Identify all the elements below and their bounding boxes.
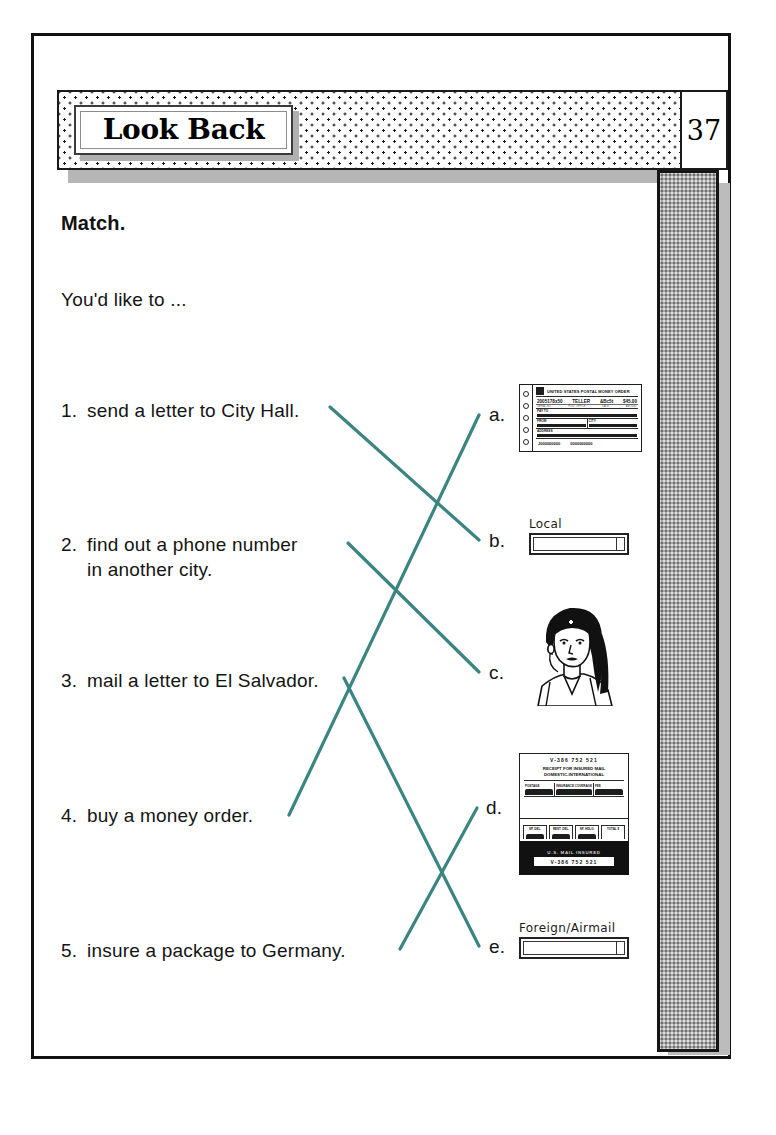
total-label: TOTAL $ <box>602 827 624 831</box>
sphdlg-fill-bar <box>578 834 596 839</box>
prompt-number: 5. <box>61 938 87 963</box>
prompt-item-2[interactable]: 2. find out a phone number in another ci… <box>61 532 298 582</box>
artwork-postal-money-order: UNITED STATES POSTAL MONEY ORDER 2005178… <box>519 384 642 452</box>
receipt-coverage-cell: INSURANCE COVERAGE <box>555 783 594 796</box>
worksheet-page: Look Back 37 Match. You'd like to ... 1.… <box>0 0 776 1135</box>
punch-hole-icon <box>523 391 529 397</box>
page-title: Look Back <box>103 116 265 144</box>
receipt-middle-section: SP. DEL. REST. DEL. SP. HDLG. TOTAL $ <box>519 819 629 841</box>
exercise-heading: Match. <box>61 212 126 235</box>
money-order-payto-row: PAY TO <box>536 408 638 418</box>
header-title-box: Look Back <box>74 105 293 155</box>
receipt-black-band: U.S. MAIL INSURED V-386 752 521 <box>519 841 629 875</box>
restdel-fill-bar <box>552 834 570 839</box>
fee-label: FEE <box>595 784 623 788</box>
answer-letter-e[interactable]: e. <box>489 937 505 956</box>
money-order-amount: $45.00 <box>623 399 637 404</box>
eagle-seal-icon <box>536 387 544 395</box>
prompt-text: insure a package to Germany. <box>87 938 346 963</box>
artwork-local-mail-slot: Local <box>529 517 629 555</box>
money-order-title: UNITED STATES POSTAL MONEY ORDER <box>547 389 630 394</box>
spdel-label: SP. DEL. <box>524 827 546 831</box>
receipt-top-section: V-386 752 521 RECEIPT FOR INSURED MAIL D… <box>519 753 629 819</box>
operator-portrait-drawing <box>524 598 620 706</box>
receipt-band-text: U.S. MAIL INSURED <box>547 850 600 855</box>
local-slot-opening <box>533 537 625 551</box>
prompt-text: mail a letter to El Salvador. <box>87 668 319 693</box>
answer-letter-c[interactable]: c. <box>489 663 504 682</box>
receipt-fee-grid: POSTAGE INSURANCE COVERAGE FEE <box>524 783 624 797</box>
receipt-fee-cell: FEE <box>594 783 624 796</box>
money-order-from-row: FROM CITY <box>536 418 638 428</box>
sphdlg-label: SP. HDLG. <box>576 827 598 831</box>
receipt-restdel-cell: REST. DEL. <box>549 825 573 839</box>
money-order-office: TELLER <box>572 399 590 404</box>
prompt-number: 1. <box>61 398 87 423</box>
artwork-telephone-operator <box>524 598 620 706</box>
payto-fill-bar <box>537 414 637 418</box>
footer-account: 0000000000 <box>570 441 592 446</box>
foreign-slot-opening <box>523 941 625 955</box>
side-decoration-bar <box>657 170 719 1052</box>
page-number: 37 <box>687 117 721 144</box>
restdel-label: REST. DEL. <box>550 827 572 831</box>
money-order-date: &Bc5t <box>600 399 613 404</box>
answer-letter-d[interactable]: d. <box>486 798 502 817</box>
postage-fill-bar <box>525 789 553 795</box>
prompt-text: find out a phone number in another city. <box>87 532 298 582</box>
receipt-number-bottom: V-386 752 521 <box>534 857 614 866</box>
spdel-fill-bar <box>526 834 544 839</box>
city-fill-bar <box>589 424 638 428</box>
payto-label: PAY TO <box>536 409 638 414</box>
punch-hole-icon <box>523 427 529 433</box>
page-number-box: 37 <box>680 90 728 170</box>
money-order-punch-holes <box>520 385 533 451</box>
answer-letter-b[interactable]: b. <box>489 531 505 550</box>
prompt-text: send a letter to City Hall. <box>87 398 299 423</box>
receipt-sphdlg-cell: SP. HDLG. <box>575 825 599 839</box>
receipt-total-cell: TOTAL $ <box>601 825 625 839</box>
local-slot-frame <box>529 533 629 555</box>
prompt-item-3[interactable]: 3. mail a letter to El Salvador. <box>61 668 319 693</box>
coverage-fill-bar <box>556 789 592 795</box>
foreign-slot-frame <box>519 937 629 959</box>
prompt-text: buy a money order. <box>87 803 253 828</box>
prompt-number: 2. <box>61 532 87 557</box>
punch-hole-icon <box>523 415 529 421</box>
receipt-postage-cell: POSTAGE <box>524 783 555 796</box>
money-order-city-cell: CITY <box>588 419 639 428</box>
prompt-item-5[interactable]: 5. insure a package to Germany. <box>61 938 346 963</box>
foreign-slot-label: Foreign/Airmail <box>519 921 629 935</box>
address-label: ADDRESS <box>536 429 638 434</box>
money-order-serial: 2005178x50 <box>537 399 563 404</box>
receipt-spdel-cell: SP. DEL. <box>523 825 547 839</box>
receipt-heading-line2: DOMESTIC-INTERNATIONAL <box>524 772 624 778</box>
fee-fill-bar <box>595 789 623 795</box>
money-order-title-row: UNITED STATES POSTAL MONEY ORDER <box>536 387 638 397</box>
money-order-body: UNITED STATES POSTAL MONEY ORDER 2005178… <box>533 385 641 451</box>
punch-hole-icon <box>523 403 529 409</box>
prompt-item-1[interactable]: 1. send a letter to City Hall. <box>61 398 299 423</box>
prompt-item-4[interactable]: 4. buy a money order. <box>61 803 253 828</box>
receipt-heading: RECEIPT FOR INSURED MAIL DOMESTIC-INTERN… <box>524 766 624 781</box>
coverage-label: INSURANCE COVERAGE <box>556 784 592 788</box>
money-order-data-row: 2005178x50 TELLER &Bc5t $45.00 <box>536 397 638 405</box>
local-slot-label: Local <box>529 517 629 531</box>
postage-label: POSTAGE <box>525 784 553 788</box>
address-fill-bar <box>537 434 637 438</box>
punch-hole-icon <box>523 439 529 445</box>
money-order-address-row: ADDRESS <box>536 428 638 438</box>
artwork-insured-mail-receipt: V-386 752 521 RECEIPT FOR INSURED MAIL D… <box>519 753 629 875</box>
from-fill-bar <box>537 424 586 428</box>
header-title-inner-rule: Look Back <box>80 111 287 149</box>
money-order-footer: J000000000 0000000000 <box>536 438 638 446</box>
exercise-subprompt: You'd like to ... <box>61 289 187 311</box>
prompt-number: 4. <box>61 803 87 828</box>
money-order-from-cell: FROM <box>536 419 588 428</box>
city-label: CITY <box>588 419 639 424</box>
footer-routing: J000000000 <box>538 441 560 446</box>
answer-letter-a[interactable]: a. <box>489 405 505 424</box>
from-label: FROM <box>536 419 587 424</box>
artwork-foreign-airmail-slot: Foreign/Airmail <box>519 921 629 959</box>
receipt-number-top: V-386 752 521 <box>524 757 624 763</box>
